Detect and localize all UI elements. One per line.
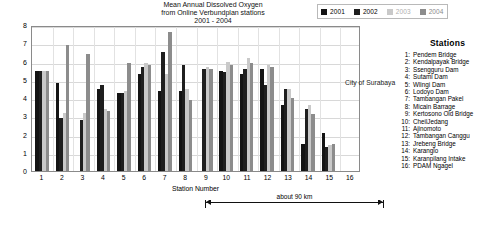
station-number: 5: bbox=[398, 81, 413, 88]
station-number: 16: bbox=[398, 162, 413, 169]
bar-group-station-15 bbox=[318, 27, 338, 171]
chart-title-line2: from Online Verbundplan stations bbox=[118, 9, 308, 17]
station-list-item: 12:Tambangan Canggu bbox=[398, 132, 497, 139]
station-list-item: 1:Pendem Bridge bbox=[398, 51, 497, 58]
x-tick-label: 6 bbox=[134, 174, 155, 184]
legend-label: 2001 bbox=[330, 8, 345, 15]
bar-2004-station-2 bbox=[66, 45, 69, 171]
bar-group-station-3 bbox=[73, 27, 93, 171]
x-tick-label: 14 bbox=[298, 174, 319, 184]
x-tick-label: 16 bbox=[339, 174, 360, 184]
bar-2004-station-12 bbox=[270, 67, 273, 171]
y-tick-label: 3 bbox=[9, 113, 27, 120]
x-tick-label: 10 bbox=[216, 174, 237, 184]
bar-2004-station-9 bbox=[209, 69, 212, 171]
station-name: Micain Barrage bbox=[413, 103, 497, 110]
bar-group-station-16 bbox=[339, 27, 359, 171]
y-tick-label: 2 bbox=[9, 132, 27, 139]
bar-group-station-11 bbox=[236, 27, 256, 171]
bar-2004-station-4 bbox=[107, 111, 110, 171]
legend-swatch-icon bbox=[387, 9, 393, 15]
legend-label: 2002 bbox=[363, 8, 378, 15]
bar-2004-station-5 bbox=[127, 63, 130, 171]
legend-swatch-icon bbox=[354, 9, 360, 15]
x-tick-label: 8 bbox=[175, 174, 196, 184]
y-axis-ticks: 012345678 bbox=[5, 26, 27, 172]
y-tick-label: 6 bbox=[9, 59, 27, 66]
bar-2004-station-13 bbox=[291, 98, 294, 171]
x-tick-label: 11 bbox=[237, 174, 258, 184]
bar-group-station-10 bbox=[216, 27, 236, 171]
bar-group-station-4 bbox=[93, 27, 113, 171]
station-list-item: 5:Wlingi Dam bbox=[398, 81, 497, 88]
station-name: Karanpilang Intake bbox=[413, 155, 497, 162]
station-number: 10: bbox=[398, 118, 413, 125]
bar-2004-station-11 bbox=[250, 63, 253, 171]
station-list-item: 16:PDAM Ngagel bbox=[398, 162, 497, 169]
annotation-city: City of Surabaya bbox=[345, 79, 395, 86]
legend-item-2002: 2002 bbox=[354, 8, 378, 15]
y-tick-label: 7 bbox=[9, 40, 27, 47]
x-tick-label: 9 bbox=[196, 174, 217, 184]
bar-group-station-12 bbox=[257, 27, 277, 171]
span-line bbox=[206, 202, 383, 203]
station-name: Ajinomoto bbox=[413, 125, 497, 132]
station-number: 13: bbox=[398, 140, 413, 147]
y-tick-label: 0 bbox=[9, 168, 27, 175]
station-list-item: 2:Kendalpayak Bridge bbox=[398, 58, 497, 65]
station-number: 14: bbox=[398, 147, 413, 154]
station-name: Lodoyo Dam bbox=[413, 88, 497, 95]
bar-groups bbox=[32, 27, 359, 171]
bar-group-station-1 bbox=[32, 27, 52, 171]
bar-group-station-8 bbox=[175, 27, 195, 171]
bar-2004-station-6 bbox=[148, 65, 151, 171]
station-name: Pendem Bridge bbox=[413, 51, 497, 58]
bar-2004-station-3 bbox=[86, 54, 89, 171]
bar-2004-station-15 bbox=[332, 144, 335, 171]
station-number: 6: bbox=[398, 88, 413, 95]
chart-legend: 2001200220032004 bbox=[317, 4, 448, 19]
stations-panel: Stations 1:Pendem Bridge2:Kendalpayak Br… bbox=[398, 38, 497, 170]
station-list-item: 11:Ajinomoto bbox=[398, 125, 497, 132]
station-name: Kendalpayak Bridge bbox=[413, 58, 497, 65]
stations-list: 1:Pendem Bridge2:Kendalpayak Bridge3:Sse… bbox=[398, 51, 497, 170]
y-tick-label: 8 bbox=[9, 22, 27, 29]
station-name: Sutami Dam bbox=[413, 73, 497, 80]
bar-group-station-9 bbox=[196, 27, 216, 171]
station-list-item: 7:Tambangan Pakel bbox=[398, 95, 497, 102]
x-tick-label: 7 bbox=[154, 174, 175, 184]
station-list-item: 9:Kertosono Old Bridge bbox=[398, 110, 497, 117]
bar-group-station-7 bbox=[155, 27, 175, 171]
station-name: Tambangan Canggu bbox=[413, 132, 497, 139]
chart-title: Mean Annual Dissolved Oxygen from Online… bbox=[118, 1, 308, 26]
figure-caption bbox=[0, 219, 497, 227]
x-axis-title: Station Number bbox=[31, 185, 360, 192]
x-tick-label: 15 bbox=[319, 174, 340, 184]
station-number: 7: bbox=[398, 95, 413, 102]
station-name: Ssengguru Dam bbox=[413, 66, 497, 73]
station-name: CheilJedang bbox=[413, 118, 497, 125]
bar-group-station-13 bbox=[277, 27, 297, 171]
station-list-item: 13:Jrebeng Bridge bbox=[398, 140, 497, 147]
y-tick-label: 4 bbox=[9, 95, 27, 102]
x-tick-label: 13 bbox=[278, 174, 299, 184]
station-number: 12: bbox=[398, 132, 413, 139]
chart-figure: Mean Annual Dissolved Oxygen from Online… bbox=[0, 0, 497, 227]
x-tick-label: 1 bbox=[31, 174, 52, 184]
station-number: 3: bbox=[398, 66, 413, 73]
x-tick-label: 3 bbox=[72, 174, 93, 184]
bar-group-station-6 bbox=[134, 27, 154, 171]
station-list-item: 4:Sutami Dam bbox=[398, 73, 497, 80]
x-tick-label: 5 bbox=[113, 174, 134, 184]
legend-swatch-icon bbox=[321, 9, 327, 15]
station-list-item: 3:Ssengguru Dam bbox=[398, 66, 497, 73]
bar-group-station-14 bbox=[298, 27, 318, 171]
bar-2004-station-1 bbox=[46, 71, 49, 171]
station-number: 8: bbox=[398, 103, 413, 110]
bar-group-station-2 bbox=[52, 27, 72, 171]
x-tick-label: 4 bbox=[93, 174, 114, 184]
station-name: Tambangan Pakel bbox=[413, 95, 497, 102]
legend-item-2003: 2003 bbox=[387, 8, 411, 15]
legend-item-2004: 2004 bbox=[420, 8, 444, 15]
bar-2004-station-10 bbox=[230, 65, 233, 171]
